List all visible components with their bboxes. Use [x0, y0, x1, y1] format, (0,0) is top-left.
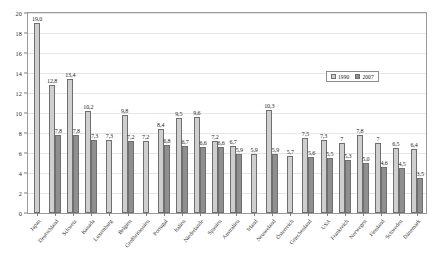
bar-value-label: 6,4 — [410, 142, 417, 148]
bar-group: 8,46,8 — [155, 13, 173, 213]
bar-2007: 5,3 — [345, 160, 351, 213]
y-axis: 02468101214161820 — [0, 12, 27, 214]
x-axis-tick-label: Italien — [172, 218, 186, 233]
bar-value-label: 5,9 — [272, 147, 279, 153]
x-axis-tick-mark — [200, 213, 201, 216]
x-axis-tick-label: Irland — [245, 218, 258, 232]
bar-value-label: 10,2 — [83, 104, 93, 110]
x-axis-tick-mark — [381, 213, 382, 216]
bar-group: 6,75,9 — [227, 13, 245, 213]
bar-group: 10,27,3 — [82, 13, 100, 213]
x-axis-tick: Portugal — [155, 215, 173, 276]
bar-group: 6,54,5 — [390, 13, 408, 213]
bar-group: 10,35,9 — [263, 13, 281, 213]
bar-value-label: 5,5 — [326, 151, 333, 157]
bar-value-label: 5,7 — [287, 149, 294, 155]
bar-2007: 7,8 — [73, 135, 79, 213]
legend-item: 1990 — [331, 74, 349, 80]
bar-value-label: 7,5 — [302, 131, 309, 137]
bar-2007: 5,9 — [236, 154, 242, 213]
x-axis-tick: Frankreich — [336, 215, 354, 276]
x-axis-tick: Irland — [245, 215, 263, 276]
bar-group: 5,7 — [281, 13, 299, 213]
bar-value-label: 5,6 — [308, 150, 315, 156]
bar-2007: 5,6 — [308, 157, 314, 213]
x-axis-tick-mark — [146, 213, 147, 216]
y-axis-tick-label: 8 — [19, 130, 22, 137]
x-axis-tick-mark — [109, 213, 110, 216]
x-axis-tick-label: Belgien — [116, 218, 132, 235]
bar-value-label: 7,8 — [356, 128, 363, 134]
x-axis-tick: Schweden — [390, 215, 408, 276]
x-axis-tick-label: USA — [319, 218, 331, 231]
bar-group: 9,66,6 — [191, 13, 209, 213]
bar-group: 7,85,0 — [354, 13, 372, 213]
bar-group: 9,87,2 — [118, 13, 136, 213]
bar-value-label: 6,6 — [218, 140, 225, 146]
bar-2007: 7,2 — [128, 141, 134, 213]
bar-group: 12,87,8 — [46, 13, 64, 213]
bar-value-label: 9,8 — [121, 108, 128, 114]
bar-value-label: 8,4 — [157, 122, 164, 128]
bar-1990: 5,9 — [251, 154, 257, 213]
bar-1990: 19,0 — [34, 23, 40, 213]
bar-2007: 4,5 — [399, 168, 405, 213]
x-axis-tick: Kanada — [82, 215, 100, 276]
x-axis-tick-mark — [37, 213, 38, 216]
legend-item: 2007 — [355, 74, 373, 80]
bar-value-label: 5,3 — [344, 153, 351, 159]
x-axis-tick: Spanien — [209, 215, 227, 276]
bar-value-label: 10,3 — [264, 103, 274, 109]
x-axis-tick-label: Kanada — [80, 218, 96, 235]
bar-group: 7,2 — [137, 13, 155, 213]
x-axis-tick-mark — [164, 213, 165, 216]
bar-2007: 6,8 — [164, 145, 170, 213]
x-axis-tick-mark — [345, 213, 346, 216]
bar-group: 9,56,7 — [173, 13, 191, 213]
x-axis-tick: Großbritannien — [137, 215, 155, 276]
x-axis-tick-mark — [254, 213, 255, 216]
x-axis-tick: Schweiz — [64, 215, 82, 276]
bar-group: 75,3 — [336, 13, 354, 213]
bar-value-label: 6,8 — [163, 138, 170, 144]
x-axis-tick-mark — [128, 213, 129, 216]
x-axis-tick-mark — [363, 213, 364, 216]
y-axis-tick-label: 14 — [16, 70, 22, 77]
y-axis-tick-label: 0 — [19, 210, 22, 217]
x-axis-tick: Japan — [28, 215, 46, 276]
legend-label: 1990 — [338, 74, 349, 80]
bar-value-label: 4,5 — [399, 161, 406, 167]
bar-value-label: 19,0 — [32, 16, 42, 22]
x-axis-tick: Griechenland — [299, 215, 317, 276]
bar-group: 7,3 — [100, 13, 118, 213]
bar-2007: 5,0 — [363, 163, 369, 213]
bar-value-label: 7,3 — [106, 133, 113, 139]
bar-1990: 7,2 — [143, 141, 149, 213]
x-axis-tick-mark — [417, 213, 418, 216]
bar-value-label: 7,8 — [55, 128, 62, 134]
y-axis-tick-label: 10 — [16, 110, 22, 117]
x-axis-tick: Neuseeland — [263, 215, 281, 276]
bar-value-label: 7,3 — [91, 133, 98, 139]
x-axis-tick-mark — [55, 213, 56, 216]
bar-value-label: 5,0 — [362, 156, 369, 162]
x-axis-tick-label: Spanien — [206, 218, 222, 236]
bar-group: 13,47,8 — [64, 13, 82, 213]
bar-2007: 3,5 — [417, 178, 423, 213]
x-axis-tick-label: Schweiz — [61, 218, 78, 237]
x-axis-tick: Norwegen — [354, 215, 372, 276]
y-axis-tick-label: 16 — [16, 50, 22, 57]
x-axis-tick-mark — [218, 213, 219, 216]
bar-value-label: 9,5 — [175, 111, 182, 117]
bar-1990: 7,3 — [106, 140, 112, 213]
chart-container: 02468101214161820 19,012,87,813,47,810,2… — [0, 0, 435, 276]
legend-swatch-icon — [331, 74, 336, 79]
x-axis-tick-mark — [91, 213, 92, 216]
y-axis-tick-label: 12 — [16, 90, 22, 97]
bar-1990: 5,7 — [287, 156, 293, 213]
bar-value-label: 3,5 — [417, 171, 424, 177]
x-axis-tick: Deutschland — [46, 215, 64, 276]
bar-value-label: 6,7 — [229, 139, 236, 145]
x-axis-tick-mark — [399, 213, 400, 216]
legend-swatch-icon — [355, 74, 360, 79]
